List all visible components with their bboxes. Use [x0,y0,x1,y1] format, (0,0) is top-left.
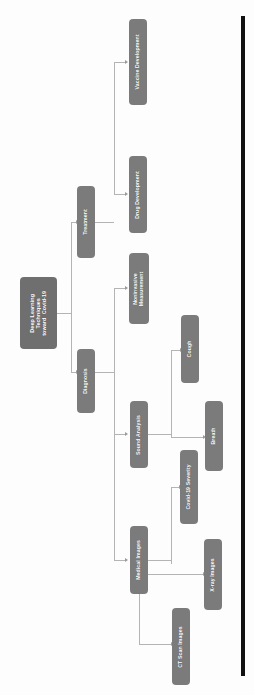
edge-treatment-bus [114,62,115,194]
page-edge-rule [241,16,245,676]
node-breath[interactable]: Breath [205,401,223,471]
node-noninvasive-measurement[interactable]: Noninvasive Measurement [129,253,149,324]
node-sound-analysis[interactable]: Sound Analysis [130,401,148,468]
edge-diagnosis-stem [95,372,114,373]
node-vaccine-development-label: Vaccine Development [135,34,141,89]
node-cough-label: Cough [187,341,193,358]
node-sound-analysis-label: Sound Analysis [136,414,142,454]
arrow-sound-analysis [125,432,128,436]
node-drug-development-label: Drug Development [135,171,141,219]
node-medical-images[interactable]: Medical Images [130,526,148,594]
node-treatment-label: Treatment [83,209,89,235]
node-ct-scan-images[interactable]: CT Scan Images [172,608,190,685]
node-covid19-severity[interactable]: Covid-19 Severity [180,450,198,524]
edge-sound-bus [171,350,172,438]
edge-diagnosis-bus [114,288,115,560]
node-cough[interactable]: Cough [181,315,199,383]
node-xray-images[interactable]: X-ray Images [204,539,222,610]
edge-sound-to-breath [171,437,204,438]
node-diagnosis-label: Diagnosis [83,368,89,394]
node-diagnosis[interactable]: Diagnosis [77,349,95,413]
node-xray-images-label: X-ray Images [210,558,216,592]
edge-medical-to-ct [139,644,172,645]
node-covid19-severity-label: Covid-19 Severity [186,464,192,509]
node-drug-development[interactable]: Drug Development [129,156,147,233]
node-vaccine-development[interactable]: Vaccine Development [129,19,147,105]
edge-sound-stem [148,434,171,435]
node-root-label: Deep Learning Techniques toward Covid-19 [29,290,48,335]
diagram-canvas: Deep Learning Techniques toward Covid-19… [0,0,254,695]
arrow-medical-images [125,558,128,562]
node-breath-label: Breath [211,427,217,444]
node-ct-scan-images-label: CT Scan Images [178,626,184,667]
node-root[interactable]: Deep Learning Techniques toward Covid-19 [20,277,57,349]
arrow-noninvasive-measurement [125,286,128,290]
edge-medical-bus [171,487,172,564]
edge-root-bus [71,222,72,372]
arrow-vaccine-development [125,60,128,64]
arrow-drug-development [125,192,128,196]
edge-root-stem [57,313,71,314]
edge-treatment-stem [95,222,114,223]
node-treatment[interactable]: Treatment [77,186,95,258]
edge-medical-stem [148,560,171,561]
node-medical-images-label: Medical Images [136,540,142,580]
edge-medical-to-xray [148,574,204,575]
node-noninvasive-measurement-label: Noninvasive Measurement [133,271,145,306]
